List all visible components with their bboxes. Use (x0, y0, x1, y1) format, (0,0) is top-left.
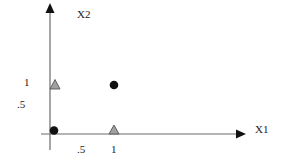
triangle-point-1-0 (109, 125, 119, 134)
triangle-point-0-1 (50, 80, 60, 90)
y-axis-arrowhead-icon (46, 3, 55, 13)
circle-point-0-0 (50, 126, 59, 135)
x-axis-label: X1 (255, 124, 268, 135)
y-axis-label: X2 (77, 9, 90, 20)
x-axis-arrowhead-icon (236, 130, 246, 139)
y-tick-label-half: .5 (17, 99, 25, 110)
y-tick-label-1: 1 (24, 77, 30, 88)
circle-point-1-1 (110, 81, 119, 90)
x-tick-label-1: 1 (111, 144, 117, 155)
x-tick-label-half: .5 (77, 144, 85, 155)
xor-scatter-diagram (0, 0, 283, 162)
